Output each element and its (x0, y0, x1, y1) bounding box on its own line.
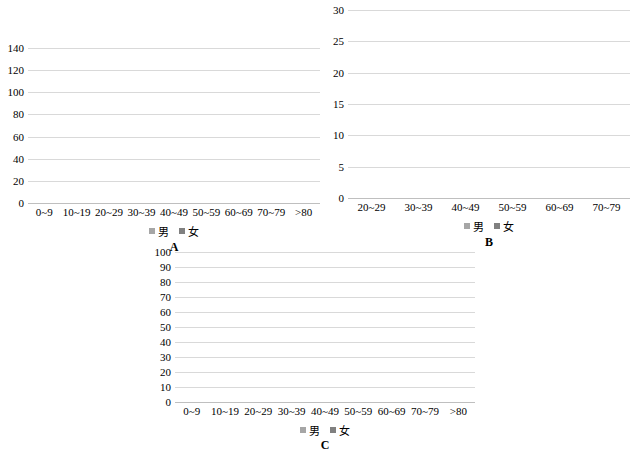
bar-group (190, 48, 222, 203)
y-axis-tick-label: 5 (339, 161, 349, 172)
y-axis-tick-label: 70 (160, 292, 175, 303)
bar-group (442, 10, 489, 198)
legend-item-female: 女 (179, 223, 199, 239)
legend-swatch-male (149, 228, 155, 234)
x-axis-tick-label: 60~69 (223, 206, 255, 218)
x-axis-tick-label: 10~19 (60, 206, 92, 218)
bar-group (375, 252, 408, 402)
bar-group (536, 10, 583, 198)
y-axis-tick-label: 25 (333, 36, 348, 47)
legend-item-female: 女 (494, 218, 514, 234)
y-axis-tick-label: 0 (339, 193, 349, 204)
legend-swatch-female (179, 228, 185, 234)
chart-b-x-axis: 20~2930~3940~4950~5960~6970~79 (348, 201, 630, 213)
y-axis-tick-label: 20 (13, 175, 28, 186)
y-axis-tick-label: 0 (166, 397, 176, 408)
legend-item-male: 男 (300, 422, 320, 438)
y-axis-tick-label: 40 (160, 337, 175, 348)
y-axis-tick-label: 100 (8, 87, 29, 98)
bar-group (208, 252, 241, 402)
chart-panel-b: 051015202530 20~2930~3940~4950~5960~6970… (348, 10, 630, 245)
gridline (175, 402, 475, 403)
y-axis-tick-label: 30 (160, 352, 175, 363)
x-axis-tick-label: 20~29 (242, 405, 275, 417)
bar-group (489, 10, 536, 198)
bar-group (275, 252, 308, 402)
legend-label-male: 男 (158, 223, 169, 239)
y-axis-tick-label: 30 (333, 5, 348, 16)
bar-group (288, 48, 320, 203)
legend-label-male: 男 (309, 422, 320, 438)
legend-label-female: 女 (503, 218, 514, 234)
y-axis-tick-label: 40 (13, 153, 28, 164)
gridline (348, 198, 630, 199)
panel-label-b: B (348, 235, 630, 250)
bar-group (348, 10, 395, 198)
y-axis-tick-label: 20 (333, 67, 348, 78)
bar-group (255, 48, 287, 203)
legend-label-male: 男 (473, 218, 484, 234)
bar-group (342, 252, 375, 402)
chart-a-x-axis: 0~910~1920~2930~3940~4950~5960~6970~79>8… (28, 206, 320, 218)
bar-group (223, 48, 255, 203)
y-axis-tick-label: 60 (13, 131, 28, 142)
bar-group (158, 48, 190, 203)
chart-panel-c: 0102030405060708090100 0~910~1920~2930~3… (175, 252, 475, 450)
x-axis-tick-label: 40~49 (442, 201, 489, 213)
legend-item-male: 男 (464, 218, 484, 234)
bar-group (408, 252, 441, 402)
panel-label-c: C (175, 438, 475, 453)
y-axis-tick-label: 10 (160, 382, 175, 393)
bar-group (175, 252, 208, 402)
chart-a-plot-area: 020406080100120140 (28, 48, 320, 203)
x-axis-tick-label: 30~39 (125, 206, 157, 218)
chart-panel-a: 020406080100120140 0~910~1920~2930~3940~… (28, 48, 320, 248)
bar-group (583, 10, 630, 198)
legend-item-male: 男 (149, 223, 169, 239)
bar-group (28, 48, 60, 203)
y-axis-tick-label: 120 (8, 65, 29, 76)
legend-swatch-male (300, 427, 306, 433)
y-axis-tick-label: 80 (160, 277, 175, 288)
y-axis-tick-label: 140 (8, 43, 29, 54)
legend-item-female: 女 (330, 422, 350, 438)
y-axis-tick-label: 15 (333, 99, 348, 110)
bar-group (242, 252, 275, 402)
x-axis-tick-label: 20~29 (348, 201, 395, 213)
x-axis-tick-label: 50~59 (489, 201, 536, 213)
chart-b-plot-area: 051015202530 (348, 10, 630, 198)
y-axis-tick-label: 20 (160, 367, 175, 378)
x-axis-tick-label: 10~19 (208, 405, 241, 417)
chart-a-legend: 男 女 (28, 223, 320, 239)
chart-c-x-axis: 0~910~1920~2930~3940~4950~5960~6970~79>8… (175, 405, 475, 417)
x-axis-tick-label: 50~59 (190, 206, 222, 218)
legend-label-female: 女 (339, 422, 350, 438)
x-axis-tick-label: 20~29 (93, 206, 125, 218)
x-axis-tick-label: 60~69 (375, 405, 408, 417)
x-axis-tick-label: 30~39 (275, 405, 308, 417)
bar-group (395, 10, 442, 198)
x-axis-tick-label: >80 (288, 206, 320, 218)
y-axis-tick-label: 90 (160, 262, 175, 273)
legend-label-female: 女 (188, 223, 199, 239)
chart-c-plot-area: 0102030405060708090100 (175, 252, 475, 402)
y-axis-tick-label: 80 (13, 109, 28, 120)
x-axis-tick-label: 50~59 (342, 405, 375, 417)
x-axis-tick-label: 0~9 (28, 206, 60, 218)
bar-group (308, 252, 341, 402)
x-axis-tick-label: 70~79 (255, 206, 287, 218)
x-axis-tick-label: 40~49 (158, 206, 190, 218)
legend-swatch-female (494, 223, 500, 229)
y-axis-tick-label: 60 (160, 307, 175, 318)
chart-a-bars (28, 48, 320, 203)
chart-b-legend: 男 女 (348, 218, 630, 234)
bar-group (93, 48, 125, 203)
bar-group (125, 48, 157, 203)
x-axis-tick-label: 40~49 (308, 405, 341, 417)
chart-c-bars (175, 252, 475, 402)
gridline (28, 203, 320, 204)
bar-group (442, 252, 475, 402)
chart-c-legend: 男 女 (175, 422, 475, 438)
x-axis-tick-label: 70~79 (583, 201, 630, 213)
chart-b-bars (348, 10, 630, 198)
